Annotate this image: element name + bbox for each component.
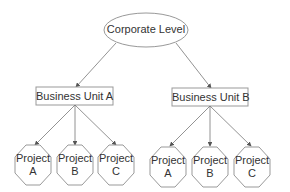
project-c-label-unit-b: ProjectC (232, 154, 272, 180)
project-c-label-unit-a: ProjectC (96, 152, 136, 178)
project-b-label-unit-a: ProjectB (55, 152, 95, 178)
project-a-label-unit-b: ProjectA (148, 154, 188, 180)
project-a-label-unit-a: ProjectA (13, 152, 53, 178)
corporate-level-label: Corporate Level (104, 23, 188, 36)
edge-unit-b-to-project-a (170, 106, 210, 146)
edge-corporate-to-unit-a (76, 43, 116, 87)
edge-corporate-to-unit-b (176, 43, 211, 88)
project-b-label-unit-b: ProjectB (190, 154, 230, 180)
edge-unit-a-to-project-a (35, 105, 75, 145)
business-unit-a-label: Business Unit A (36, 90, 113, 103)
edge-unit-b-to-project-c (210, 106, 251, 146)
edge-unit-a-to-project-c (75, 105, 116, 145)
business-unit-b-label: Business Unit B (172, 91, 248, 104)
